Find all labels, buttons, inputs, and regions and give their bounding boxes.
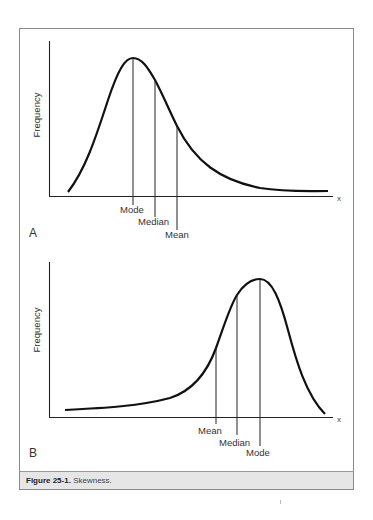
distribution-curve [65,279,325,414]
figure-caption: Figure 25-1. Skewness. [19,471,354,490]
scan-mark [280,500,281,504]
caption-text: Skewness. [73,476,112,485]
x-axis-label: x [337,415,341,424]
panel-letter-a: A [29,226,37,240]
mean-label: Mean [198,425,222,436]
mean-label: Mean [165,229,189,240]
y-axis-label: Frequency [31,307,42,352]
mode-label: Mode [246,447,270,458]
distribution-curve [68,58,328,192]
skewness-diagram: Mode Median Mean x Frequency A Mean Medi… [0,0,373,520]
x-axis-label: x [337,194,341,203]
mode-label: Mode [120,204,144,215]
panel-letter-b: B [29,446,37,460]
caption-label: Figure 25-1. [26,476,71,485]
y-axis-label: Frequency [31,92,42,137]
panel-a: Mode Median Mean x Frequency A [29,41,341,240]
median-label: Median [138,216,169,227]
panel-b: Mean Median Mode x Frequency B [29,262,341,460]
